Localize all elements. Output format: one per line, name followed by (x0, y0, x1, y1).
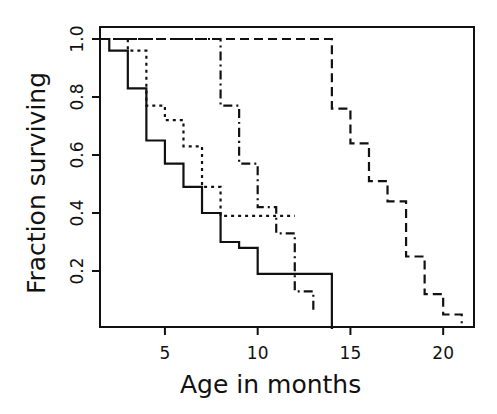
curve-dash-dot (100, 39, 313, 312)
x-axis-label: Age in months (180, 370, 361, 399)
y-axis-label: Fraction surviving (22, 72, 51, 294)
x-axis-ticks (165, 327, 443, 335)
plot-frame (100, 27, 474, 327)
x-tick-label: 15 (340, 343, 362, 363)
x-tick-label: 10 (247, 343, 269, 363)
curve-solid (100, 39, 332, 329)
curve-dotted (100, 39, 295, 216)
curve-dashed (100, 39, 462, 323)
x-tick-label: 20 (432, 343, 454, 363)
y-axis-ticks (92, 39, 100, 271)
survival-curves (100, 39, 462, 329)
x-tick-label: 5 (160, 343, 171, 363)
